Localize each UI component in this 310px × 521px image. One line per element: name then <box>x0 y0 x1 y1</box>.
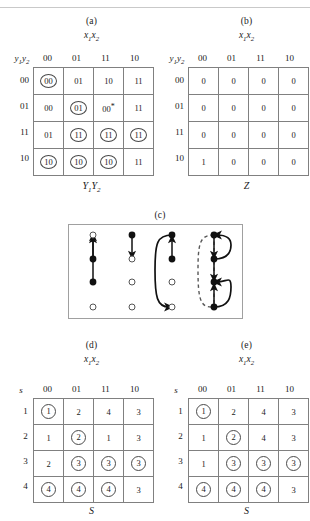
c-column-2 <box>129 232 136 310</box>
kmap-a: 00 01 11 10 y1y2 00 01 11 10 00011011000… <box>33 67 154 176</box>
kmap-a-colhdr-2: 11 <box>91 53 120 63</box>
kmap-cell-value: 11 <box>134 158 142 167</box>
kmap-cell: 3 <box>64 451 94 477</box>
top-divider-rule <box>0 7 310 8</box>
kmap-cell: 3 <box>249 451 279 477</box>
kmap-a-row-variable-label: y1y2 <box>11 53 33 65</box>
kmap-cell: 0 <box>279 122 309 149</box>
kmap-e-column-headers: 00 01 11 10 <box>188 384 305 394</box>
kmap-cell: 11 <box>124 122 154 149</box>
kmap-cell-value: 3 <box>291 486 295 495</box>
panel-e-output-label: S <box>188 505 305 516</box>
kmap-b-colhdr-3: 10 <box>275 53 304 63</box>
state-transition-diagram <box>69 225 242 318</box>
kmap-cell-value: 0 <box>291 77 295 86</box>
kmap-cell: 4 <box>219 477 249 503</box>
panel-a-top-label: x1x2 <box>33 30 150 42</box>
kmap-b-colhdr-0: 00 <box>188 53 217 63</box>
kmap-cell: 00* <box>94 95 124 122</box>
kmap-cell: 11 <box>124 68 154 95</box>
panel-b-top-label: x1x2 <box>188 30 305 42</box>
kmap-cell: 3 <box>279 477 309 503</box>
kmap-d-row-headers: 1 2 3 4 <box>18 398 33 498</box>
kmap-cell-value: 3 <box>136 408 140 417</box>
kmap-e: 00 01 11 10 s 1 2 3 4 1243124313334443 <box>188 398 309 503</box>
kmap-cell: 4 <box>94 477 124 503</box>
kmap-a-row-headers: 00 01 11 10 <box>16 67 33 171</box>
kmap-cell: 1 <box>94 425 124 451</box>
kmap-cell: 0 <box>279 95 309 122</box>
kmap-cell: 2 <box>64 425 94 451</box>
kmap-cell: 11 <box>124 95 154 122</box>
c-column-3 <box>155 232 175 310</box>
kmap-b-rowhdr-2: 11 <box>171 119 188 145</box>
panel-e-caption: (e) <box>188 340 305 350</box>
kmap-cell: 3 <box>279 451 309 477</box>
kmap-d-colhdr-2: 11 <box>91 384 120 394</box>
panel-c-caption: (c) <box>60 210 260 220</box>
kmap-cell-value: 3 <box>131 456 146 471</box>
table-row: 1243 <box>189 425 309 451</box>
kmap-cell: 4 <box>249 477 279 503</box>
kmap-cell: 0 <box>249 122 279 149</box>
kmap-cell-value: 0 <box>201 77 205 86</box>
table-row: 4443 <box>34 477 154 503</box>
kmap-b-colhdr-1: 01 <box>217 53 246 63</box>
kmap-cell-value: 3 <box>136 486 140 495</box>
kmap-cell-value: 1 <box>201 158 205 167</box>
kmap-cell: 0 <box>249 149 279 176</box>
kmap-cell: 11 <box>94 122 124 149</box>
kmap-d-rowhdr-2: 3 <box>18 448 33 473</box>
kmap-cell-value: 0 <box>291 131 295 140</box>
kmap-cell: 4 <box>189 477 219 503</box>
kmap-cell-value: 0 <box>231 131 235 140</box>
kmap-a-column-headers: 00 01 11 10 <box>33 53 150 63</box>
kmap-cell-value: 4 <box>41 482 56 497</box>
kmap-cell: 1 <box>189 149 219 176</box>
kmap-cell-value: 01 <box>70 101 87 115</box>
state-transition-panel <box>68 224 243 319</box>
table-row: 0000 <box>189 95 309 122</box>
table-row: 0000 <box>189 122 309 149</box>
kmap-cell: 3 <box>124 477 154 503</box>
kmap-cell: 3 <box>124 425 154 451</box>
kmap-cell: 0 <box>219 149 249 176</box>
table-row: 1243 <box>34 399 154 425</box>
kmap-cell-asterisk: * <box>111 102 115 111</box>
kmap-cell-value: 1 <box>201 434 205 443</box>
kmap-cell: 2 <box>34 451 64 477</box>
kmap-e-colhdr-2: 11 <box>246 384 275 394</box>
kmap-cell-value: 3 <box>226 456 241 471</box>
kmap-cell-value: 4 <box>256 482 271 497</box>
kmap-cell: 0 <box>249 95 279 122</box>
kmap-e-colhdr-3: 10 <box>275 384 304 394</box>
table-row: 0000 <box>189 68 309 95</box>
panel-d-top-label: x1x2 <box>33 354 150 366</box>
kmap-d-body: 1243121323334443 <box>34 399 154 503</box>
kmap-cell: 00 <box>34 95 64 122</box>
kmap-cell: 1 <box>34 425 64 451</box>
kmap-cell: 01 <box>34 122 64 149</box>
kmap-cell: 1 <box>189 425 219 451</box>
kmap-e-rowhdr-0: 1 <box>173 398 188 423</box>
kmap-b-column-headers: 00 01 11 10 <box>188 53 305 63</box>
table-row: 1243 <box>189 399 309 425</box>
kmap-cell: 2 <box>219 399 249 425</box>
kmap-cell: 3 <box>124 399 154 425</box>
kmap-cell: 0 <box>189 122 219 149</box>
kmap-cell-value: 0 <box>291 158 295 167</box>
kmap-e-rowhdr-1: 2 <box>173 423 188 448</box>
kmap-e-rowhdr-3: 4 <box>173 473 188 498</box>
kmap-cell-value: 11 <box>130 128 147 142</box>
c-column-1 <box>90 232 97 310</box>
kmap-cell-value: 01 <box>44 131 53 140</box>
table-row: 1213 <box>34 425 154 451</box>
kmap-cell-value: 00 <box>40 74 57 88</box>
kmap-d-table: 1243121323334443 <box>33 398 154 503</box>
kmap-e-body: 1243124313334443 <box>189 399 309 503</box>
kmap-cell: 10 <box>94 149 124 176</box>
kmap-cell-value: 4 <box>226 482 241 497</box>
kmap-cell: 1 <box>189 399 219 425</box>
kmap-d-column-headers: 00 01 11 10 <box>33 384 150 394</box>
kmap-a-table: 00011011000100*110111111110101011 <box>33 67 154 176</box>
